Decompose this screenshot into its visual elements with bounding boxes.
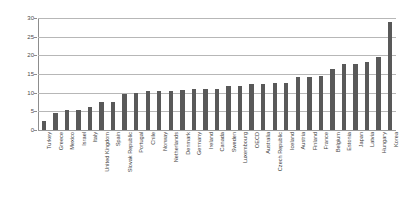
x-tick-label: Netherlands	[173, 132, 179, 162]
x-tick-label: Turkey	[46, 132, 52, 149]
axis-baseline	[38, 130, 396, 131]
y-tick-mark	[34, 37, 37, 38]
x-tick-label: Austria	[300, 132, 306, 149]
bar-series	[38, 18, 396, 130]
bar	[226, 86, 230, 130]
bar	[342, 64, 346, 130]
bar	[180, 90, 184, 130]
y-axis: 051015202530	[0, 18, 34, 130]
bar-chart: 051015202530 TurkeyGreeceMexicoIsraelIta…	[0, 0, 406, 201]
x-tick-label-text: Belgium	[335, 132, 341, 152]
y-tick-label: 0	[4, 127, 34, 133]
bar	[238, 86, 242, 130]
bar	[353, 64, 357, 130]
x-tick-label-text: Latvia	[369, 132, 375, 147]
y-tick-label: 30	[4, 15, 34, 21]
bar	[296, 77, 300, 130]
x-tick-label: Norway	[162, 132, 168, 151]
bar	[157, 91, 161, 130]
x-tick-label: Slovak Republic	[127, 132, 133, 172]
bar	[99, 102, 103, 130]
x-tick-label-text: Japan	[358, 132, 364, 147]
x-tick-label: Chile	[150, 132, 156, 145]
bar	[53, 113, 57, 130]
y-tick-label: 10	[4, 90, 34, 96]
x-tick-label: Israel	[81, 132, 87, 146]
x-tick-label: OECD	[254, 132, 260, 148]
y-tick-mark	[34, 93, 37, 94]
x-tick-label: Mexico	[69, 132, 75, 150]
x-tick-label-text: Korea	[393, 132, 399, 147]
x-tick-label-text: Chile	[150, 132, 156, 145]
x-tick-label-text: Hungary	[381, 132, 387, 153]
bar	[169, 91, 173, 130]
x-tick-label: Belgium	[335, 132, 341, 152]
bar	[249, 84, 253, 130]
bar	[215, 89, 219, 130]
y-tick-label: 25	[4, 34, 34, 40]
bar	[273, 83, 277, 130]
x-tick-label-text: Portugal	[138, 132, 144, 153]
x-tick-label: Australia	[265, 132, 271, 154]
bar	[111, 102, 115, 130]
x-tick-label-text: Denmark	[185, 132, 191, 155]
x-tick-label-text: Israel	[81, 132, 87, 146]
x-tick-label-text: United Kingdom	[104, 132, 110, 172]
x-tick-label-text: Sweden	[231, 132, 237, 152]
bar	[146, 91, 150, 130]
bar	[192, 89, 196, 130]
bar	[284, 83, 288, 130]
x-tick-label: Sweden	[231, 132, 237, 152]
x-tick-label-text: Finland	[312, 132, 318, 150]
bar	[388, 22, 392, 130]
x-tick-label: Latvia	[369, 132, 375, 147]
x-tick-label: Italy	[92, 132, 98, 142]
x-tick-label-text: Norway	[162, 132, 168, 151]
x-tick-label-text: Luxembourg	[242, 132, 248, 163]
bar	[330, 69, 334, 130]
x-tick-label: Czech Republic	[277, 132, 283, 171]
x-tick-label: Estonia	[346, 132, 352, 151]
x-tick-label-text: Spain	[115, 132, 121, 146]
x-tick-label-text: Mexico	[69, 132, 75, 150]
x-tick-label-text: Austria	[300, 132, 306, 149]
x-tick-label-text: Italy	[92, 132, 98, 142]
x-tick-label: United Kingdom	[104, 132, 110, 172]
bar	[319, 76, 323, 131]
y-tick-mark	[34, 111, 37, 112]
x-tick-label: Spain	[115, 132, 121, 146]
x-tick-label-text: Iceland	[289, 132, 295, 150]
bar	[365, 62, 369, 130]
bar	[76, 110, 80, 130]
x-tick-label-text: Turkey	[46, 132, 52, 149]
y-tick-mark	[34, 74, 37, 75]
x-axis-labels: TurkeyGreeceMexicoIsraelItalyUnited King…	[38, 132, 396, 201]
x-tick-label: Hungary	[381, 132, 387, 153]
x-tick-label: France	[323, 132, 329, 149]
x-tick-label: Canada	[219, 132, 225, 152]
x-tick-label: Korea	[393, 132, 399, 147]
y-tick-label: 5	[4, 108, 34, 114]
x-tick-label-text: Czech Republic	[277, 132, 283, 171]
y-tick-label: 20	[4, 52, 34, 58]
x-tick-label-text: Canada	[219, 132, 225, 152]
x-tick-label: Germany	[196, 132, 202, 155]
bar	[42, 121, 46, 130]
x-tick-label-text: France	[323, 132, 329, 149]
y-tick-mark	[34, 18, 37, 19]
x-tick-label-text: Greece	[58, 132, 64, 150]
y-tick-mark	[34, 130, 37, 131]
x-tick-label: Japan	[358, 132, 364, 147]
bar	[376, 57, 380, 130]
bar	[122, 94, 126, 130]
bar	[65, 110, 69, 130]
x-tick-label: Finland	[312, 132, 318, 150]
x-tick-label-text: Estonia	[346, 132, 352, 151]
x-tick-label: Ireland	[208, 132, 214, 149]
bar	[88, 107, 92, 130]
x-tick-label-text: Slovak Republic	[127, 132, 133, 172]
x-tick-label-text: Australia	[265, 132, 271, 154]
y-tick-mark	[34, 55, 37, 56]
x-tick-label: Luxembourg	[242, 132, 248, 163]
x-tick-label-text: Ireland	[208, 132, 214, 149]
